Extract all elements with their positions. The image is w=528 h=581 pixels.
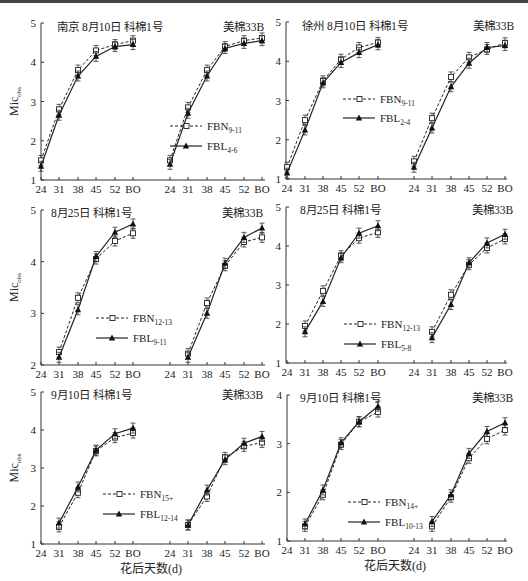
chart-panel-4: 123452431384552BO2431384552BO8月25日 科棉1号美…: [276, 201, 514, 378]
square-marker: [321, 288, 326, 293]
x-axis-label: 花后天数(d): [364, 558, 426, 573]
y-tick-label: 5: [31, 204, 37, 216]
x-tick-label: 31: [300, 366, 311, 378]
y-tick-label: 2: [31, 500, 37, 512]
y-tick-label: 2: [276, 134, 282, 146]
panel-title-left: 9月10日 科棉1号: [300, 391, 381, 404]
x-tick-label: 31: [300, 182, 311, 194]
series-line-fbn: [432, 430, 505, 526]
x-tick-label: 45: [91, 368, 103, 380]
y-axis-label: Micobs: [7, 453, 23, 482]
legend-square-marker: [184, 124, 189, 129]
triangle-marker: [75, 306, 81, 312]
legend-square-marker: [117, 492, 122, 497]
triangle-marker: [204, 487, 210, 493]
series-line-fbl: [59, 224, 133, 357]
x-tick-label: BO: [254, 183, 269, 195]
square-marker: [430, 116, 435, 121]
x-tick-label: 38: [446, 544, 458, 556]
x-tick-label: 31: [183, 183, 194, 195]
legend-square-marker: [110, 316, 115, 321]
x-tick-label: 31: [183, 547, 194, 559]
x-tick-label: 52: [482, 366, 493, 378]
series-line-fbl: [287, 45, 378, 173]
triangle-marker: [502, 419, 508, 425]
y-tick-label: 2: [277, 486, 283, 498]
panel-title-right: 美棉33B: [472, 203, 514, 216]
y-tick-label: 5: [31, 17, 37, 29]
x-tick-label: 45: [91, 547, 103, 559]
x-axis-label: 花后天数(d): [120, 561, 182, 576]
x-tick-label: 24: [165, 547, 177, 559]
series-line-fbl: [188, 436, 262, 525]
x-tick-label: 45: [464, 182, 476, 194]
x-tick-label: 38: [202, 547, 214, 559]
series-line-fbl: [432, 423, 505, 522]
x-tick-label: 31: [54, 368, 65, 380]
x-tick-label: 45: [336, 366, 348, 378]
x-tick-label: 24: [409, 366, 421, 378]
y-tick-label: 4: [31, 56, 37, 68]
y-tick-label: 4: [277, 389, 283, 401]
y-tick-label: 1: [276, 173, 282, 185]
series-line-fbl: [41, 45, 133, 167]
x-tick-label: 24: [165, 183, 177, 195]
square-marker: [449, 292, 454, 297]
x-tick-label: BO: [370, 544, 385, 556]
panel-title-left: 8月25日 科棉1号: [51, 206, 132, 219]
x-tick-label: 45: [220, 368, 232, 380]
x-tick-label: 45: [91, 183, 103, 195]
chart-panel-6: 12342431384552BO2431384552BO9月10日 科棉1号美棉…: [277, 389, 514, 573]
x-tick-label: 52: [482, 544, 493, 556]
series-line-fbl: [414, 46, 505, 168]
x-tick-label: BO: [370, 182, 385, 194]
legend-label: FBL4-6: [207, 140, 237, 155]
y-tick-label: 3: [31, 462, 37, 474]
y-tick-label: 4: [276, 55, 282, 67]
legend-label: FBN14+: [385, 496, 418, 511]
panel-title-left: 8月25日 科棉1号: [300, 203, 381, 216]
series-line-fbn: [188, 237, 262, 353]
x-tick-label: 31: [427, 366, 438, 378]
y-tick-label: 4: [276, 240, 282, 252]
x-tick-label: 45: [336, 544, 348, 556]
x-tick-label: BO: [125, 183, 140, 195]
legend-label: FBL5-8: [381, 338, 411, 353]
y-tick-label: 1: [276, 357, 282, 369]
square-marker: [449, 74, 454, 79]
x-tick-label: 52: [354, 366, 365, 378]
chart-panel-5: 123452431384552BO2431384552BOMicobs9月10日…: [7, 386, 270, 576]
legend-label: FBN9-11: [380, 93, 415, 108]
x-tick-label: 24: [409, 182, 421, 194]
x-tick-label: BO: [370, 366, 385, 378]
y-tick-label: 3: [276, 95, 282, 107]
square-marker: [260, 235, 265, 240]
legend-square-marker: [362, 500, 367, 505]
square-marker: [303, 118, 308, 123]
triangle-marker: [259, 225, 265, 231]
triangle-marker: [259, 433, 265, 439]
x-tick-label: 52: [110, 183, 121, 195]
legend-label: FBN15+: [140, 488, 173, 503]
x-tick-label: 38: [202, 183, 214, 195]
legend-square-marker: [357, 97, 362, 102]
legend-square-marker: [358, 322, 363, 327]
x-tick-label: 24: [36, 368, 48, 380]
x-tick-label: 24: [36, 183, 48, 195]
x-tick-label: 24: [282, 366, 294, 378]
x-tick-label: 24: [409, 544, 421, 556]
triangle-marker: [56, 520, 62, 526]
x-tick-label: 38: [318, 544, 330, 556]
x-tick-label: 52: [110, 547, 121, 559]
figure-canvas: 123452431384552BO2431384552BOMicobs南京 8月…: [0, 0, 528, 581]
y-tick-label: 5: [31, 386, 37, 398]
x-tick-label: 31: [300, 544, 311, 556]
y-tick-label: 5: [276, 201, 282, 213]
panel-title-right: 美棉33B: [222, 206, 264, 219]
legend-label: FBN12-13: [381, 318, 420, 333]
x-tick-label: 38: [318, 366, 330, 378]
series-line-fbn: [59, 233, 133, 352]
legend-label: FBL2-4: [380, 112, 410, 127]
square-marker: [503, 428, 508, 433]
legend-label: FBN9-11: [207, 120, 242, 135]
